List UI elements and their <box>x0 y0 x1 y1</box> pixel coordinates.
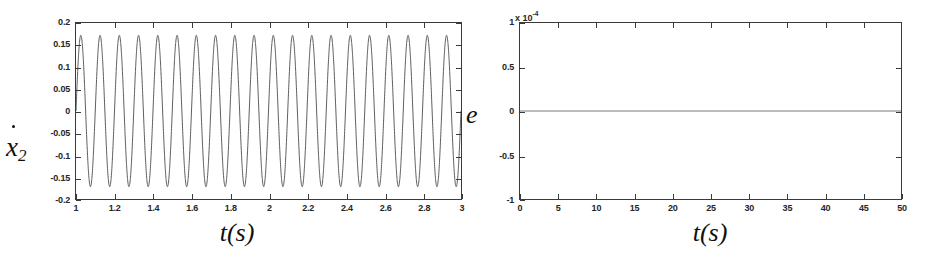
plot-area-left <box>76 23 461 199</box>
tick-x-left-10 <box>462 194 463 199</box>
tick-label-y-left-6: -0.1 <box>30 151 70 161</box>
plot-frame-right <box>519 22 902 200</box>
tick-y-right-mirror-b <box>896 112 901 113</box>
tick-x-left-1 <box>115 194 116 199</box>
tick-label-y-right-3: -0.5 <box>476 151 514 161</box>
tick-x-right-top-9 <box>864 23 865 28</box>
tick-label-y-left-4: 0 <box>30 106 70 116</box>
tick-x-top-mirror-5 <box>270 23 271 28</box>
tick-x-top-mirror-6 <box>308 23 309 28</box>
tick-label-x-right-3: 15 <box>630 203 640 213</box>
tick-label-y-left-8: -0.2 <box>30 195 70 205</box>
tick-label-x-left-8: 2.6 <box>380 203 392 213</box>
x-axis-title-right-close: ) <box>719 218 728 247</box>
error-waveform-right <box>520 23 901 199</box>
tick-label-y-left-5: -0.05 <box>30 128 70 138</box>
tick-label-x-left-0: 1 <box>74 203 79 213</box>
tick-label-y-left-2: 0.1 <box>30 62 70 72</box>
tick-y-right-mirror-6 <box>456 157 461 158</box>
tick-x-top-mirror-9 <box>424 23 425 28</box>
tick-y-right-mirror-4 <box>456 112 461 113</box>
panel-right-error: e x 10-4 <box>470 0 927 261</box>
tick-x-right-1 <box>558 194 559 199</box>
tick-x-left-2 <box>153 194 154 199</box>
tick-label-y-right-0: 1 <box>476 17 514 27</box>
tick-label-x-right-1: 5 <box>556 203 561 213</box>
tick-x-right-3 <box>635 194 636 199</box>
dot-accent-icon <box>12 125 15 128</box>
tick-y-left-3 <box>76 90 81 91</box>
tick-x-top-mirror-8 <box>386 23 387 28</box>
tick-x-left-3 <box>192 194 193 199</box>
tick-label-x-right-8: 40 <box>821 203 831 213</box>
tick-x-right-7 <box>787 194 788 199</box>
x-axis-title-left-unit: s <box>236 218 246 247</box>
tick-label-y-left-7: -0.15 <box>30 173 70 183</box>
tick-label-x-right-9: 45 <box>859 203 869 213</box>
tick-label-x-left-5: 2 <box>267 203 272 213</box>
tick-label-x-left-6: 2.2 <box>302 203 314 213</box>
tick-x-right-top-1 <box>558 23 559 28</box>
tick-x-right-0 <box>520 194 521 199</box>
tick-x-top-mirror-1 <box>115 23 116 28</box>
tick-y-right-2 <box>520 112 525 113</box>
tick-y-right-3 <box>520 157 525 158</box>
tick-y-right-1 <box>520 68 525 69</box>
tick-x-right-top-2 <box>596 23 597 28</box>
tick-label-x-right-7: 35 <box>783 203 793 213</box>
tick-x-right-9 <box>864 194 865 199</box>
tick-x-left-5 <box>270 194 271 199</box>
tick-label-x-right-6: 30 <box>744 203 754 213</box>
panel-left-velocity: x2 <box>0 0 470 261</box>
tick-y-right-mirror-5 <box>456 134 461 135</box>
x-axis-title-left: t(s) <box>220 218 255 248</box>
tick-label-x-left-9: 2.8 <box>418 203 430 213</box>
tick-y-right-mirror-a <box>896 68 901 69</box>
tick-label-x-left-2: 1.4 <box>147 203 159 213</box>
tick-x-left-7 <box>347 194 348 199</box>
tick-x-right-5 <box>711 194 712 199</box>
tick-label-x-right-5: 25 <box>706 203 716 213</box>
tick-label-y-left-1: 0.15 <box>30 39 70 49</box>
tick-y-right-mirror-1 <box>456 45 461 46</box>
tick-x-right-top-3 <box>635 23 636 28</box>
sine-waveform-left <box>76 23 461 199</box>
tick-label-x-left-1: 1.2 <box>109 203 121 213</box>
tick-y-right-mirror-7 <box>456 179 461 180</box>
tick-y-left-0 <box>76 23 81 24</box>
y-axis-exponent-power: -4 <box>533 10 539 17</box>
tick-x-top-mirror-3 <box>192 23 193 28</box>
tick-x-left-4 <box>231 194 232 199</box>
tick-y-right-mirror-c <box>896 157 901 158</box>
tick-y-left-2 <box>76 68 81 69</box>
tick-label-y-left-0: 0.2 <box>30 17 70 27</box>
tick-x-top-mirror-4 <box>231 23 232 28</box>
tick-x-right-top-6 <box>749 23 750 28</box>
tick-x-left-6 <box>308 194 309 199</box>
plot-area-right <box>520 23 901 199</box>
tick-label-x-left-7: 2.4 <box>341 203 353 213</box>
tick-y-right-mirror-2 <box>456 68 461 69</box>
plot-frame-left <box>75 22 462 200</box>
tick-y-right-4 <box>520 200 525 201</box>
tick-x-left-9 <box>424 194 425 199</box>
tick-label-x-right-10: 50 <box>897 203 907 213</box>
tick-x-right-8 <box>826 194 827 199</box>
tick-y-left-7 <box>76 179 81 180</box>
tick-x-right-top-8 <box>826 23 827 28</box>
tick-x-right-6 <box>749 194 750 199</box>
tick-y-left-1 <box>76 45 81 46</box>
tick-y-left-4 <box>76 112 81 113</box>
x-axis-title-left-close: ) <box>246 218 255 247</box>
tick-x-right-top-5 <box>711 23 712 28</box>
tick-x-right-2 <box>596 194 597 199</box>
two-panel-figure: x2 <box>0 0 927 261</box>
tick-x-left-8 <box>386 194 387 199</box>
tick-x-right-10 <box>902 194 903 199</box>
tick-y-right-mirror-3 <box>456 90 461 91</box>
tick-label-x-left-3: 1.6 <box>186 203 198 213</box>
tick-y-left-6 <box>76 157 81 158</box>
tick-y-left-8 <box>76 200 81 201</box>
tick-y-right-0 <box>520 23 525 24</box>
x-axis-title-right-open: ( <box>700 218 709 247</box>
